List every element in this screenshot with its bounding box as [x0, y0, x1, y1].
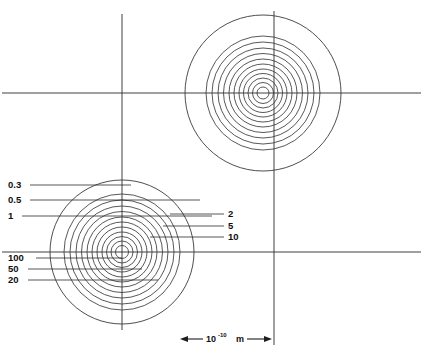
contour-labels-left-upper: 0.3 0.5 1 — [8, 179, 22, 221]
contour-label-1: 1 — [8, 210, 14, 221]
scale-bar-unit: m — [236, 334, 244, 344]
contour-labels-left-lower: 100 50 20 — [8, 252, 24, 285]
scale-bar-right-arrowhead — [264, 336, 272, 342]
contour-label-0-5: 0.5 — [8, 194, 22, 205]
contour-label-0-3: 0.3 — [8, 179, 21, 190]
contour-figure-canvas: 0.3 0.5 1 100 50 20 2 5 10 10 -10 m — [0, 0, 423, 356]
contour-label-20: 20 — [8, 274, 19, 285]
contour-figure: 0.3 0.5 1 100 50 20 2 5 10 10 -10 m — [0, 0, 423, 356]
scale-bar-mantissa: 10 — [206, 334, 216, 344]
scale-bar-left-arrowhead — [180, 336, 188, 342]
contour-label-100: 100 — [8, 252, 24, 263]
contour-label-2: 2 — [228, 208, 233, 219]
axes-group — [2, 11, 421, 345]
scale-bar: 10 -10 m — [180, 332, 272, 344]
contour-label-10: 10 — [228, 231, 239, 242]
contour-label-5: 5 — [228, 220, 234, 231]
contour-label-50: 50 — [8, 263, 19, 274]
scale-bar-exponent: -10 — [218, 332, 227, 338]
contour-labels-right: 2 5 10 — [228, 208, 239, 242]
